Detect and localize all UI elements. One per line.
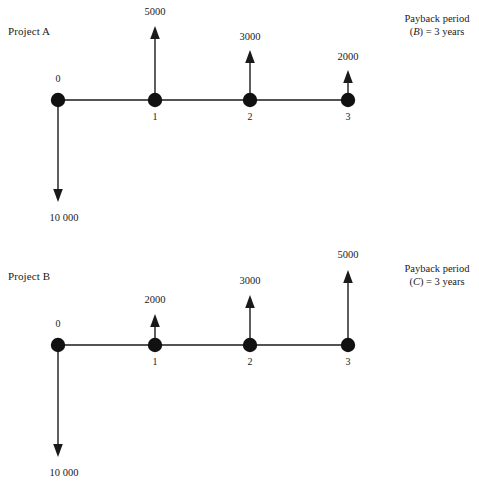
payback-symbol: B [413,26,419,37]
payback-symbol: C [413,276,420,287]
project-a-payback-note: Payback period (B) = 3 years [398,12,476,38]
period-label-3: 3 [346,356,351,368]
node-period-0 [51,338,65,352]
inflow-amount-period-3: 2000 [338,51,359,63]
arrowhead-up-period-3 [343,270,353,283]
project-b-payback-note: Payback period (C) = 3 years [398,262,476,288]
project-b-title: Project B [8,270,50,283]
inflow-amount-period-2: 3000 [240,275,261,287]
inflow-amount-period-2: 3000 [240,31,261,43]
inflow-amount-period-1: 2000 [145,294,166,306]
arrowhead-up-period-3 [343,70,353,83]
node-period-1 [148,93,162,107]
arrowhead-up-period-2 [245,50,255,63]
period-label-2: 2 [248,111,253,123]
node-period-0 [51,93,65,107]
project-a-title: Project A [8,25,50,38]
node-period-1 [148,338,162,352]
arrowhead-up-period-2 [245,295,255,308]
arrowhead-up-period-1 [150,314,160,327]
node-period-3 [341,338,355,352]
payback-value: = 3 years [426,26,465,37]
node-period-3 [341,93,355,107]
period-label-1: 1 [153,356,158,368]
arrowhead-up-period-1 [150,26,160,39]
outflow-amount-period-0: 10 000 [50,467,79,479]
period-label-0: 0 [56,73,61,85]
period-label-0: 0 [56,318,61,330]
payback-period-text: Payback period [404,263,469,274]
cash-flow-figure: Project A Payback period (B) = 3 years 5… [0,0,479,488]
period-label-2: 2 [248,356,253,368]
node-period-2 [243,338,257,352]
period-label-1: 1 [153,111,158,123]
outflow-amount-period-0: 10 000 [50,212,79,224]
payback-value: = 3 years [426,276,465,287]
arrowhead-down-period-0 [53,189,63,202]
node-period-2 [243,93,257,107]
payback-period-text: Payback period [404,13,469,24]
inflow-amount-period-1: 5000 [145,6,166,18]
arrowhead-down-period-0 [53,444,63,457]
period-label-3: 3 [346,111,351,123]
inflow-amount-period-3: 5000 [338,249,359,261]
